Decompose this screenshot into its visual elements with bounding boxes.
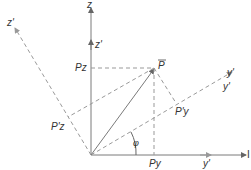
label-y-prime-axis-a: y' [227, 68, 234, 78]
p-prime-y-projection [154, 68, 176, 103]
label-z: z [87, 0, 92, 10]
label-z-prime-small: z' [95, 40, 102, 50]
label-y-prime-small: y' [203, 159, 210, 169]
label-py: Py [149, 159, 161, 169]
y-prime-axis [91, 72, 232, 155]
p-prime-z-projection [68, 68, 154, 117]
label-p: P [158, 61, 165, 71]
label-p-prime-y: P'y [175, 107, 189, 117]
rotation-diagram [0, 0, 251, 170]
label-y: I [247, 150, 250, 160]
label-z-prime-axis: z' [7, 18, 14, 28]
vector-p [91, 69, 154, 155]
label-phi: φ [133, 138, 139, 148]
label-y-prime-axis-b: y' [223, 82, 230, 92]
label-p-prime-z: P'z [51, 122, 65, 132]
z-prime-axis [15, 28, 91, 155]
label-pz: Pz [75, 63, 87, 73]
